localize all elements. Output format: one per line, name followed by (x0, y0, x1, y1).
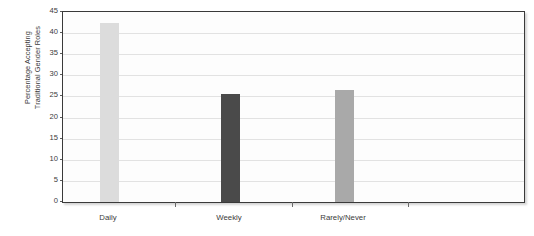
bar-rarely-never (335, 90, 354, 202)
y-tick-label: 20 (28, 113, 58, 121)
y-tick-label: 0 (28, 197, 58, 205)
y-tick-label: 25 (28, 91, 58, 99)
x-tick-mark (292, 202, 293, 207)
x-tick-label: Weekly (216, 213, 241, 223)
y-tick-label: 30 (28, 70, 58, 78)
y-tick-label: 15 (28, 134, 58, 142)
y-axis-tick-labels: 051015202530354045 (28, 0, 58, 236)
y-tick-label: 40 (28, 28, 58, 36)
y-tick-label: 5 (28, 176, 58, 184)
plot-area (62, 11, 525, 203)
x-tick-mark (408, 202, 409, 207)
x-tick-mark (175, 202, 176, 207)
y-tick-label: 10 (28, 155, 58, 163)
y-tick-label: 35 (28, 49, 58, 57)
x-tick-label: Rarely/Never (320, 213, 366, 223)
bar-daily (100, 23, 119, 202)
bar-weekly (221, 94, 240, 203)
x-tick-label: Daily (99, 213, 116, 223)
bar-series (63, 12, 524, 202)
x-axis-tick-labels: DailyWeeklyRarely/Never (62, 202, 523, 236)
y-tick-label: 45 (28, 7, 58, 15)
chart-figure: Percentage Accepting Traditional Gender … (0, 0, 534, 236)
